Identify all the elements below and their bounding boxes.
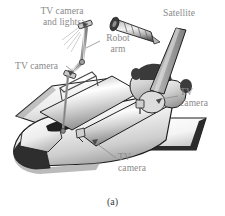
figure-caption: (a) — [0, 196, 225, 207]
label-satellite: Satellite — [163, 8, 195, 19]
label-robot-arm-line2: arm — [101, 44, 135, 55]
leader-robot-arm — [86, 41, 100, 48]
label-tv-camera-right-line2: camera — [180, 98, 220, 109]
label-tv-camera-right-line1: TV — [180, 87, 220, 98]
label-tv-camera-bottom: TV camera — [118, 152, 160, 173]
light-rays — [62, 28, 81, 52]
label-robot-arm-line1: Robot — [101, 33, 135, 44]
label-tv-camera-bottom-line2: camera — [118, 163, 160, 174]
label-tv-camera-and-lights-line2: and lights — [31, 17, 93, 28]
label-tv-camera-and-lights-line1: TV camera — [31, 6, 93, 17]
label-tv-camera-left: TV camera — [15, 61, 58, 72]
label-robot-arm: Robot arm — [101, 33, 135, 54]
label-tv-camera-bottom-line1: TV — [118, 152, 160, 163]
label-tv-camera-right: TV camera — [180, 87, 220, 108]
label-tv-camera-and-lights: TV camera and lights — [31, 6, 93, 27]
shuttle-figure: TV camera and lights Satellite Robot arm… — [0, 0, 225, 216]
remote-manipulator-arm — [62, 20, 93, 79]
